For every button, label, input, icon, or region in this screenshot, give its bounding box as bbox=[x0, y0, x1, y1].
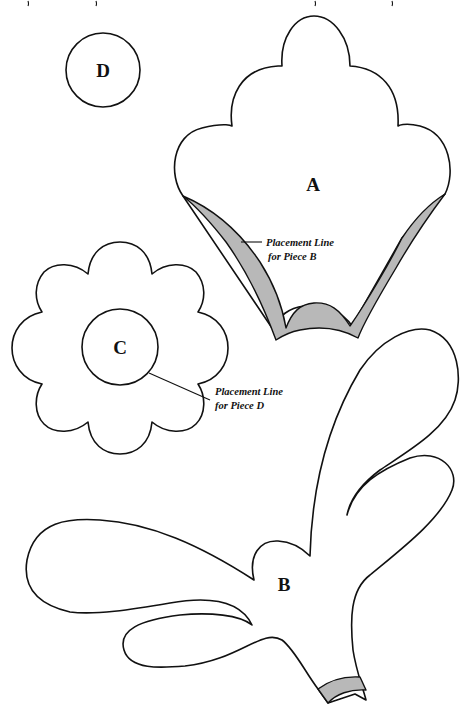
placement-b-note-line1: Placement Line bbox=[266, 237, 334, 248]
piece-a: A Placement Line for Piece B bbox=[175, 16, 451, 340]
placement-b-note-line2: for Piece B bbox=[268, 251, 316, 262]
cut-off-top-text bbox=[28, 1, 393, 6]
piece-d-label: D bbox=[96, 60, 110, 81]
placement-d-note-line1: Placement Line bbox=[215, 386, 283, 397]
piece-a-label: A bbox=[306, 174, 320, 195]
placement-d-note-line2: for Piece D bbox=[215, 400, 264, 411]
piece-c-label: C bbox=[113, 337, 127, 358]
applique-pattern-sheet: D A Placement Line for Piece B C Placeme… bbox=[0, 0, 471, 719]
piece-d: D bbox=[66, 33, 140, 107]
piece-a-outline bbox=[175, 16, 451, 328]
piece-b-label: B bbox=[278, 574, 291, 595]
